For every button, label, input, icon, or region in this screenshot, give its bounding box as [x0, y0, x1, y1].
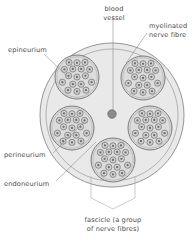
axon-core	[84, 61, 86, 63]
axon-core	[146, 84, 148, 86]
axon-core	[71, 113, 73, 115]
label-myelinated-nerve-fibre-line1: myelinated	[149, 22, 187, 30]
label-epineurium: epineurium	[8, 46, 47, 54]
axon-core	[85, 89, 87, 91]
axon-core	[99, 151, 101, 153]
axon-core	[103, 158, 105, 160]
axon-core	[158, 140, 160, 142]
axon-core	[121, 172, 123, 174]
axon-core	[120, 158, 122, 160]
axon-core	[75, 119, 77, 121]
axon-core	[63, 112, 65, 114]
axon-core	[62, 126, 64, 128]
axon-core	[149, 113, 151, 115]
axon-core	[142, 63, 144, 65]
axon-core	[140, 140, 142, 142]
axon-core	[138, 69, 140, 71]
axon-core	[129, 69, 131, 71]
nerve-cross-section-diagram: blood vessel myelinated nerve fibre epin…	[0, 0, 195, 243]
axon-core	[97, 164, 99, 166]
axon-core	[75, 134, 77, 136]
axon-core	[149, 127, 151, 129]
axon-core	[138, 84, 140, 86]
label-myelinated-nerve-fibre-line2: nerve fibre	[149, 31, 186, 39]
axon-core	[116, 166, 118, 168]
axon-core	[149, 141, 151, 143]
axon-core	[134, 62, 136, 64]
axon-core	[58, 119, 60, 121]
axon-core	[120, 144, 122, 146]
axon-core	[76, 62, 78, 64]
axon-core	[127, 82, 129, 84]
axon-core	[126, 164, 128, 166]
axon-core	[61, 81, 63, 83]
label-fascicle-line1: fascicle (a group	[85, 216, 142, 224]
axon-core	[150, 76, 152, 78]
axon-core	[116, 151, 118, 153]
axon-core	[67, 134, 69, 136]
axon-core	[150, 62, 152, 64]
axon-core	[157, 126, 159, 128]
axon-core	[72, 68, 74, 70]
axon-core	[63, 68, 65, 70]
axon-core	[68, 61, 70, 63]
axon-core	[153, 119, 155, 121]
axon-core	[103, 172, 105, 174]
axon-core	[71, 141, 73, 143]
label-blood-vessel-line2: vessel	[103, 14, 124, 22]
axon-core	[142, 77, 144, 79]
axon-core	[157, 112, 159, 114]
axon-core	[112, 145, 114, 147]
axon-core	[108, 151, 110, 153]
fascicle-bottom	[91, 138, 135, 182]
axon-core	[67, 89, 69, 91]
axon-core	[161, 119, 163, 121]
fascicle-right	[128, 106, 172, 150]
axon-core	[84, 75, 86, 77]
axon-core	[142, 91, 144, 93]
axon-core	[141, 112, 143, 114]
nerve-diagram-canvas: blood vessel myelinated nerve fibre epin…	[0, 0, 195, 243]
axon-core	[79, 112, 81, 114]
label-perineurium: perineurium	[4, 151, 46, 159]
axon-core	[154, 69, 156, 71]
axon-core	[163, 132, 165, 134]
axon-core	[76, 76, 78, 78]
axon-core	[112, 173, 114, 175]
label-fascicle-line2: of nerve fibres)	[87, 225, 139, 233]
axon-core	[140, 126, 142, 128]
fascicle-top-right	[121, 56, 165, 100]
axon-core	[104, 144, 106, 146]
axon-core	[146, 69, 148, 71]
axon-core	[124, 151, 126, 153]
axon-core	[72, 83, 74, 85]
label-blood-vessel-line1: blood	[105, 5, 124, 13]
axon-core	[151, 90, 153, 92]
axon-core	[133, 76, 135, 78]
axon-core	[133, 90, 135, 92]
fascicle-left	[50, 106, 94, 150]
blood-vessel-icon	[108, 110, 116, 118]
axon-core	[71, 127, 73, 129]
axon-core	[67, 119, 69, 121]
axon-core	[80, 140, 82, 142]
axon-core	[90, 81, 92, 83]
axon-core	[136, 119, 138, 121]
axon-core	[156, 82, 158, 84]
axon-core	[112, 159, 114, 161]
axon-core	[85, 132, 87, 134]
label-endoneurium: endoneurium	[4, 180, 49, 188]
fascicle-top-left	[55, 55, 99, 99]
axon-core	[145, 119, 147, 121]
axon-core	[88, 68, 90, 70]
axon-core	[80, 83, 82, 85]
axon-core	[153, 134, 155, 136]
axon-core	[56, 132, 58, 134]
axon-core	[145, 134, 147, 136]
axon-core	[76, 90, 78, 92]
axon-core	[134, 132, 136, 134]
axon-core	[108, 166, 110, 168]
axon-core	[80, 68, 82, 70]
